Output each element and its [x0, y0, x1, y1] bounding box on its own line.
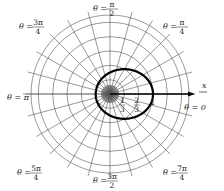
angle-label-pi: θ = π	[7, 93, 30, 102]
grid-spoke	[50, 34, 110, 94]
grid-spoke	[110, 12, 132, 94]
angle-prefix: θ =	[93, 4, 107, 13]
angle-denominator: 4	[34, 173, 39, 182]
angle-prefix: θ =	[93, 176, 107, 185]
radial-tick-label: 1	[151, 98, 156, 107]
polar-diagram: x 13231 θ = 0θ = π4θ = π2θ = 3π4θ = πθ =…	[0, 0, 224, 191]
radial-tick-label: 23	[134, 96, 140, 114]
tick-denominator: 3	[120, 105, 125, 114]
angle-text: θ = π	[7, 93, 30, 102]
angle-denominator: 4	[36, 27, 41, 36]
radial-tick-labels: 13231	[119, 96, 155, 114]
angle-label-3pi4: θ = 3π4	[19, 18, 44, 36]
grid-spoke	[36, 52, 110, 95]
tick-value: 1	[151, 98, 156, 107]
angle-prefix: θ =	[19, 22, 33, 31]
grid-spoke	[68, 94, 111, 168]
grid-spoke	[110, 94, 153, 168]
grid-spoke	[110, 20, 153, 94]
axis-label: x	[202, 81, 207, 90]
angle-label-7pi4: θ = 7π4	[163, 164, 188, 182]
angle-numerator: 3π	[107, 172, 117, 181]
angle-numerator: π	[110, 0, 115, 9]
angle-denominator: 2	[110, 181, 115, 190]
angle-label-pi4: θ = π4	[163, 18, 188, 36]
grid-spoke	[36, 94, 110, 137]
axis-arrowhead-icon	[188, 92, 195, 97]
grid-spoke	[68, 20, 111, 94]
angle-numerator: 3π	[33, 18, 43, 27]
angle-label-5pi4: θ = 5π4	[17, 164, 42, 182]
angle-denominator: 2	[110, 9, 115, 18]
angle-numerator: π	[180, 18, 185, 27]
angle-numerator: 5π	[31, 164, 41, 173]
tick-denominator: 3	[134, 105, 139, 114]
tick-numerator: 1	[120, 96, 125, 105]
angle-denominator: 4	[180, 173, 185, 182]
angle-label-0: θ = 0	[184, 103, 206, 112]
grid-spoke	[110, 34, 170, 94]
angle-prefix: θ =	[17, 168, 31, 177]
polar-axis: x	[110, 81, 207, 97]
grid-spoke	[110, 52, 184, 95]
angle-prefix: θ =	[163, 22, 177, 31]
angle-prefix: θ =	[163, 168, 177, 177]
angle-denominator: 4	[180, 27, 185, 36]
radial-tick-label: 13	[119, 96, 125, 114]
angle-numerator: 7π	[177, 164, 187, 173]
grid-spoke	[50, 94, 110, 154]
angle-text: θ = 0	[184, 103, 206, 112]
angle-label-3pi2: θ = 3π2	[93, 172, 118, 190]
tick-numerator: 2	[134, 96, 139, 105]
